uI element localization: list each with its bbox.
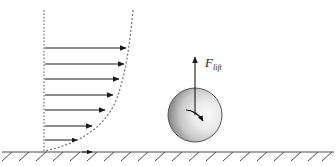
ground-hatching: [2, 152, 332, 161]
boundary-layer-profile-curve: [45, 10, 133, 151]
lift-force-label: Flift: [204, 55, 223, 72]
lift-force-subscript: lift: [213, 63, 223, 72]
velocity-arrow-group: [45, 48, 126, 140]
flow-lift-diagram: Flift: [0, 0, 336, 166]
diagram-canvas: Flift: [0, 0, 336, 166]
